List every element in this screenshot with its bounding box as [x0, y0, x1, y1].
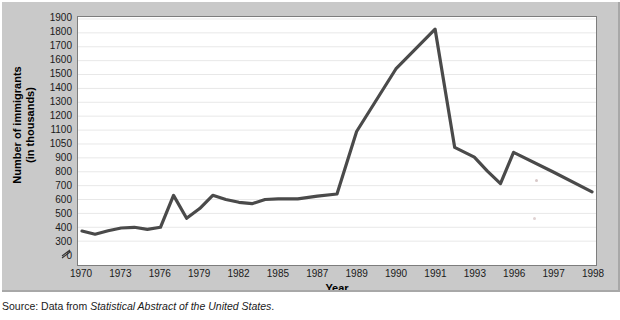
- y-tick-label: 1200: [4, 111, 72, 121]
- x-tick-label: 1976: [149, 268, 171, 280]
- x-tick-label: 1973: [109, 268, 131, 280]
- figure-panel: Number of immigrants (in thousands) 1900…: [0, 0, 620, 292]
- y-tick-label: 1100: [4, 125, 72, 135]
- y-tick-label: 800: [4, 167, 72, 177]
- line-chart-svg: [78, 17, 596, 265]
- source-note: Source: Data from Statistical Abstract o…: [2, 300, 274, 312]
- artifact-speck: [533, 217, 536, 220]
- x-tick-label: 1993: [464, 268, 486, 280]
- x-tick-label: 1987: [306, 268, 328, 280]
- x-tick-label: 1990: [385, 268, 407, 280]
- y-tick-label: 1700: [4, 41, 72, 51]
- axis-break-icon: [60, 245, 78, 259]
- x-tick-label: 1979: [188, 268, 210, 280]
- x-tick-label: 1997: [542, 268, 564, 280]
- x-tick-label: 1982: [227, 268, 249, 280]
- x-tick-label: 1998: [582, 268, 604, 280]
- y-tick-label: 500: [4, 209, 72, 219]
- x-tick-label: 1985: [267, 268, 289, 280]
- x-tick-label: 1970: [70, 268, 92, 280]
- y-tick-label: 400: [4, 223, 72, 233]
- x-axis-title: Year: [77, 282, 597, 294]
- y-tick-label: 1300: [4, 97, 72, 107]
- plot-area: [77, 16, 597, 266]
- gridlines: [78, 19, 596, 241]
- y-tick-label: 900: [4, 153, 72, 163]
- y-tick-label: 1900: [4, 13, 72, 23]
- y-tick-label: 1600: [4, 55, 72, 65]
- x-tick-label: 1989: [346, 268, 368, 280]
- x-tick-label: 1996: [503, 268, 525, 280]
- artifact-speck: [535, 179, 538, 182]
- y-tick-label: 700: [4, 181, 72, 191]
- y-tick-label: 1800: [4, 27, 72, 37]
- y-tick-label: 1500: [4, 69, 72, 79]
- source-suffix: .: [271, 300, 274, 312]
- x-axis-tick-labels: 1970197319761979198219851987198919901991…: [77, 268, 597, 282]
- source-prefix: Source: Data from: [2, 300, 90, 312]
- immigrants-data-line: [82, 29, 592, 234]
- y-tick-label: 1050: [4, 139, 72, 149]
- y-tick-label: 1400: [4, 83, 72, 93]
- source-title: Statistical Abstract of the United State…: [90, 300, 271, 312]
- x-tick-label: 1991: [424, 268, 446, 280]
- y-tick-label: 600: [4, 195, 72, 205]
